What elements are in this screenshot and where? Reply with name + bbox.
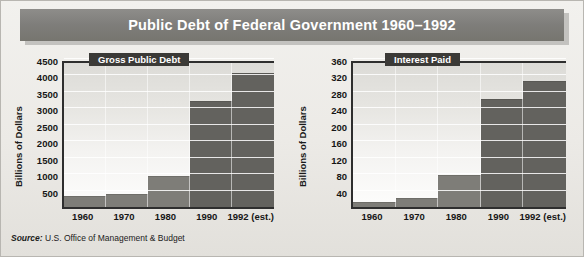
bar-cell [64,63,106,207]
x-axis-labels-left: 19601970198019901992 (est.) [62,211,274,222]
bar-cell [232,63,274,207]
y-tick-label: 80 [336,171,347,182]
bar-cell [523,63,566,207]
y-tick-label: 2500 [37,121,58,132]
y-tick-label: 500 [42,187,58,198]
gridline [353,173,566,174]
x-tick-label: 1992 (est.) [520,211,566,222]
gridline [353,91,566,92]
y-tick-label: 280 [331,88,347,99]
x-tick-label: 1960 [351,211,393,222]
bar-cell [106,63,148,207]
bar [190,101,232,207]
gridline [64,190,274,191]
x-tick-label: 1980 [145,211,186,222]
y-tick-label: 2000 [37,138,58,149]
gridline [64,124,274,125]
gridline [64,91,274,92]
chart-figure: Public Debt of Federal Government 1960–1… [0,0,584,257]
plot-area-left [62,61,274,209]
bar [438,175,481,207]
bar-cell [353,63,396,207]
gridline [64,157,274,158]
y-tick-label: 40 [336,187,347,198]
bar [148,176,190,207]
gridline [64,140,274,141]
bar-cell [148,63,190,207]
y-tick-label: 4500 [37,56,58,67]
gridline [64,74,274,75]
y-tick-label: 120 [331,154,347,165]
bar [396,198,439,207]
x-tick-label: 1990 [477,211,519,222]
bar [481,99,524,207]
x-tick-label: 1980 [435,211,477,222]
page-title: Public Debt of Federal Government 1960–1… [128,17,456,33]
gridline [353,157,566,158]
y-tick-label: 3000 [37,105,58,116]
bar-cell [190,63,232,207]
x-axis-labels-right: 19601970198019901992 (est.) [351,211,566,222]
bar-series-left [64,63,274,207]
title-banner: Public Debt of Federal Government 1960–1… [20,9,564,41]
y-axis-title-left: Billions of Dollars [11,87,25,207]
chart-title-badge-right: Interest Paid [385,53,460,66]
gridline [353,124,566,125]
y-tick-label: 360 [331,56,347,67]
gridline [353,74,566,75]
y-axis-title-right: Billions of Dollars [295,87,309,207]
gridline [353,140,566,141]
source-label: Source: [11,233,43,243]
bar-series-right [353,63,566,207]
bar-cell [481,63,524,207]
y-tick-label: 200 [331,121,347,132]
chart-title-badge-left: Gross Public Debt [89,53,189,66]
source-value: U.S. Office of Management & Budget [43,233,185,243]
bar [523,81,566,207]
bar-cell [396,63,439,207]
bar [106,194,148,207]
x-tick-label: 1970 [393,211,435,222]
bar [64,196,106,207]
bar [353,202,396,207]
x-tick-label: 1960 [62,211,103,222]
gridline [353,190,566,191]
y-tick-label: 4000 [37,72,58,83]
source-note: Source: U.S. Office of Management & Budg… [11,233,185,243]
bar-cell [438,63,481,207]
y-axis-ticks-right: 4080120160200240280320360 [315,57,347,209]
x-tick-label: 1970 [103,211,144,222]
y-tick-label: 1000 [37,171,58,182]
gridline [353,107,566,108]
y-tick-label: 320 [331,72,347,83]
gridline [64,173,274,174]
x-tick-label: 1992 (est.) [228,211,274,222]
y-tick-label: 1500 [37,154,58,165]
y-tick-label: 240 [331,105,347,116]
y-axis-ticks-left: 50010001500200025003000350040004500 [26,57,58,209]
y-tick-label: 3500 [37,88,58,99]
gridline [64,107,274,108]
x-tick-label: 1990 [186,211,227,222]
plot-area-right [351,61,566,209]
y-tick-label: 160 [331,138,347,149]
